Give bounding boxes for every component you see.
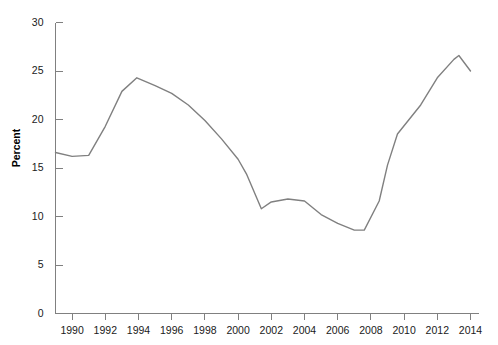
line-chart: Percent 051015202530 1990199219941996199… [0,0,498,345]
data-line-percent [56,55,471,230]
y-tick-label: 20 [4,113,44,125]
y-tick-label: 15 [4,161,44,173]
chart-plot-area [0,0,498,345]
y-tick-label: 30 [4,16,44,28]
x-tick-label: 2014 [448,324,494,336]
y-tick-label: 0 [4,307,44,319]
chart-axes [56,23,479,320]
chart-series [56,55,471,230]
y-tick-label: 10 [4,210,44,222]
y-tick-label: 5 [4,258,44,270]
y-tick-label: 25 [4,64,44,76]
